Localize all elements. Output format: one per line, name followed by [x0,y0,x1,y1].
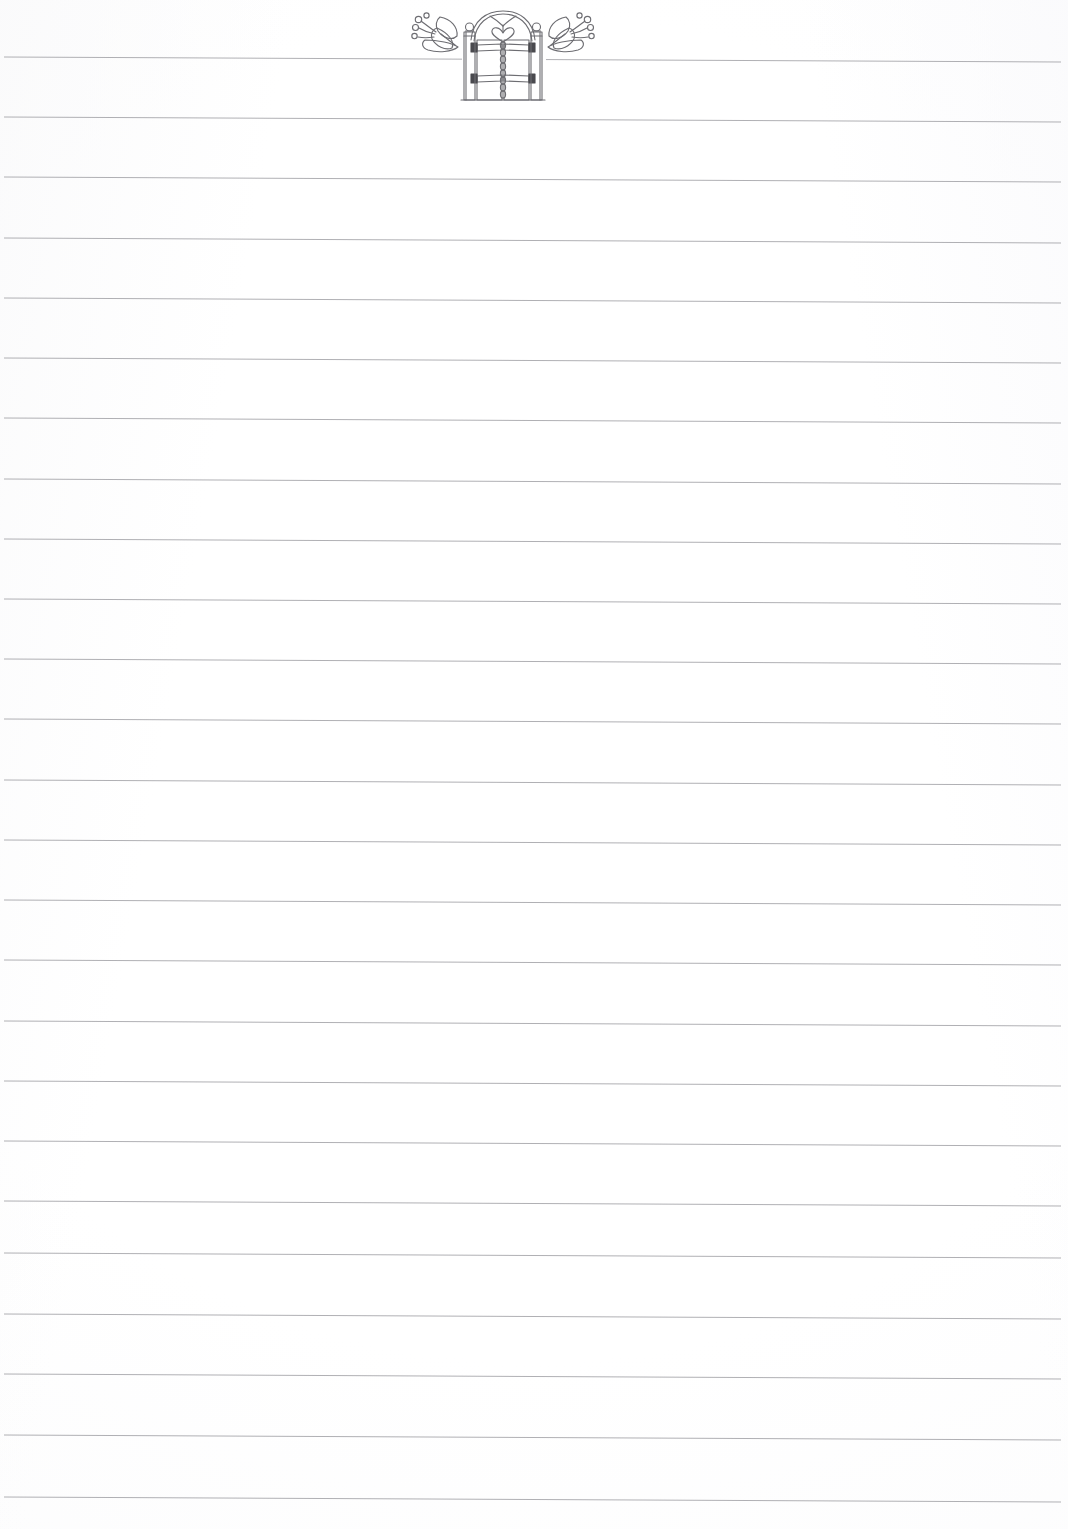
ruled-line [4,1141,1061,1146]
ruled-line [4,1314,1061,1319]
ruled-line [4,659,1061,664]
ruled-line [4,719,1061,724]
ruled-line [4,238,1061,243]
right-floral-spray-icon [548,13,594,52]
ruled-line [4,1081,1061,1086]
left-floral-spray-icon [412,13,458,52]
ruled-lines-layer [0,0,1068,1529]
ruled-line [4,1253,1061,1258]
ruled-line [4,418,1061,423]
ruled-line [4,960,1061,965]
ruled-line [4,1201,1061,1206]
notepaper-page [0,0,1068,1529]
ruled-line [4,479,1061,484]
ruled-line [4,539,1061,544]
ruled-line [4,298,1061,303]
ruled-line [4,1497,1061,1502]
ruled-line [4,1021,1061,1026]
garden-gate-icon [461,11,545,100]
ruled-line [4,840,1061,845]
ruled-line [4,358,1061,363]
ruled-line [4,780,1061,785]
ruled-line [4,599,1061,604]
ruled-line [4,900,1061,905]
ruled-line [4,1374,1061,1379]
ruled-line [4,177,1061,182]
ruled-line [4,1435,1061,1440]
gate-ornament-illustration [0,0,1068,120]
